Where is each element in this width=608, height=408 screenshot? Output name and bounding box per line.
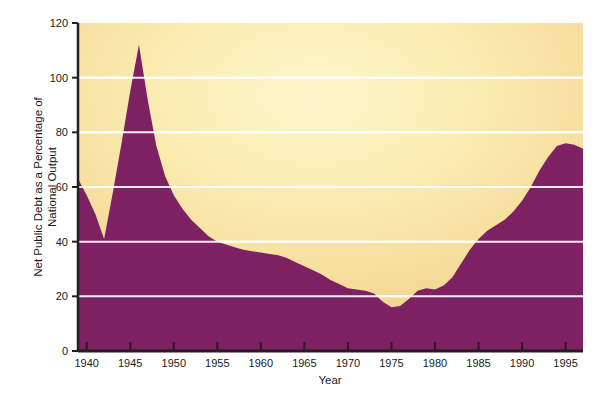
x-tick-label-1955: 1955: [205, 357, 229, 369]
y-tick-label-80: 80: [56, 126, 68, 138]
x-tick-label-1995: 1995: [553, 357, 577, 369]
chart-figure: 020406080100120 194019451950195519601965…: [0, 0, 608, 408]
y-tick-label-40: 40: [56, 236, 68, 248]
x-tick-label-1960: 1960: [249, 357, 273, 369]
y-tick-label-100: 100: [50, 72, 68, 84]
x-tick-label-1975: 1975: [379, 357, 403, 369]
x-tick-label-1985: 1985: [466, 357, 490, 369]
y-tick-label-20: 20: [56, 290, 68, 302]
x-tick-label-1970: 1970: [336, 357, 360, 369]
x-tick-label-1945: 1945: [118, 357, 142, 369]
debt-area-chart: 020406080100120 194019451950195519601965…: [0, 0, 608, 408]
x-tick-label-1950: 1950: [162, 357, 186, 369]
y-axis-title-line2: National Output: [46, 146, 58, 227]
y-tick-label-0: 0: [62, 345, 68, 357]
x-axis-title: Year: [318, 374, 341, 386]
x-tick-label-1990: 1990: [510, 357, 534, 369]
x-tick-label-1940: 1940: [74, 357, 98, 369]
y-tick-label-120: 120: [50, 17, 68, 29]
y-axis-title-line1: Net Public Debt as a Percentage of: [32, 96, 44, 276]
x-tick-label-1980: 1980: [423, 357, 447, 369]
x-tick-label-1965: 1965: [292, 357, 316, 369]
